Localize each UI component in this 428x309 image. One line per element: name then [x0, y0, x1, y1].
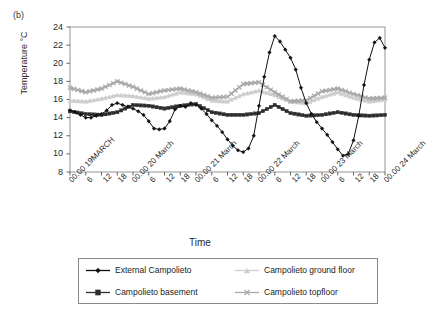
- square-marker: [104, 113, 107, 116]
- data-marker: [289, 111, 292, 114]
- square-marker: [293, 112, 296, 115]
- diamond-marker: [131, 107, 135, 111]
- data-marker: [253, 112, 256, 115]
- square-marker: [348, 113, 351, 116]
- square-marker: [253, 112, 256, 115]
- data-marker: [218, 112, 221, 115]
- square-marker: [159, 106, 162, 109]
- square-marker: [344, 112, 347, 115]
- square-marker: [163, 107, 166, 110]
- data-marker: [95, 267, 100, 272]
- data-marker: [143, 104, 146, 107]
- data-marker: [281, 107, 284, 110]
- square-marker: [167, 106, 170, 109]
- square-marker: [95, 289, 100, 294]
- data-marker: [115, 101, 119, 105]
- square-marker: [151, 105, 154, 108]
- data-marker: [234, 113, 237, 116]
- data-marker: [245, 113, 248, 116]
- square-marker: [379, 113, 382, 116]
- diamond-marker: [383, 46, 387, 50]
- data-marker: [299, 86, 303, 90]
- square-marker: [368, 114, 371, 117]
- legend: External CampolietoCampolieto ground flo…: [78, 258, 378, 304]
- legend-marker-x-icon: [234, 287, 260, 298]
- square-marker: [301, 113, 304, 116]
- square-marker: [249, 112, 252, 115]
- data-marker: [159, 106, 162, 109]
- y-tick-label: 8: [37, 168, 63, 177]
- y-tick-label: 14: [37, 113, 63, 122]
- data-marker: [119, 109, 122, 112]
- square-marker: [139, 104, 142, 107]
- square-marker: [171, 106, 174, 109]
- data-marker: [332, 111, 335, 114]
- data-marker: [320, 113, 323, 116]
- square-marker: [155, 106, 158, 109]
- data-marker: [238, 113, 241, 116]
- data-marker: [230, 113, 233, 116]
- square-marker: [273, 103, 276, 106]
- data-marker: [257, 104, 261, 108]
- y-tick-label: 22: [37, 41, 63, 50]
- legend-marker-square-icon: [85, 287, 111, 298]
- data-marker: [348, 113, 351, 116]
- legend-item[interactable]: External Campolieto: [79, 265, 228, 276]
- legend-label: Campolieto basement: [115, 287, 198, 297]
- square-marker: [210, 110, 213, 113]
- square-marker: [281, 107, 284, 110]
- data-marker: [261, 109, 264, 112]
- data-marker: [108, 112, 111, 115]
- y-axis-label: Temperature °C: [19, 3, 29, 123]
- square-marker: [131, 103, 134, 106]
- data-marker: [336, 110, 339, 113]
- square-marker: [269, 105, 272, 108]
- data-marker: [151, 105, 154, 108]
- square-marker: [84, 112, 87, 115]
- data-marker: [88, 113, 91, 116]
- data-marker: [383, 46, 387, 50]
- diamond-marker: [115, 101, 119, 105]
- square-marker: [143, 104, 146, 107]
- data-marker: [139, 104, 142, 107]
- square-marker: [222, 113, 225, 116]
- legend-item[interactable]: Campolieto topfloor: [228, 287, 377, 298]
- data-marker: [135, 103, 138, 106]
- data-marker: [147, 104, 150, 107]
- data-marker: [104, 113, 107, 116]
- legend-item[interactable]: Campolieto basement: [79, 287, 228, 298]
- data-marker: [157, 128, 161, 132]
- square-marker: [234, 113, 237, 116]
- data-marker: [242, 113, 245, 116]
- data-marker: [268, 50, 272, 54]
- data-marker: [210, 110, 213, 113]
- square-marker: [119, 109, 122, 112]
- square-marker: [261, 109, 264, 112]
- legend-item[interactable]: Campolieto ground floor: [228, 265, 377, 276]
- data-marker: [252, 134, 256, 138]
- square-marker: [277, 105, 280, 108]
- square-marker: [305, 114, 308, 117]
- square-marker: [324, 113, 327, 116]
- square-marker: [265, 107, 268, 110]
- diamond-marker: [367, 58, 371, 62]
- data-marker: [155, 106, 158, 109]
- square-marker: [245, 113, 248, 116]
- data-marker: [352, 113, 355, 116]
- square-marker: [147, 104, 150, 107]
- data-marker: [226, 113, 229, 116]
- diamond-marker: [262, 75, 266, 79]
- square-marker: [320, 113, 323, 116]
- square-marker: [116, 110, 119, 113]
- data-marker: [206, 108, 209, 111]
- square-marker: [88, 113, 91, 116]
- square-marker: [226, 113, 229, 116]
- square-marker: [316, 113, 319, 116]
- data-marker: [297, 113, 300, 116]
- data-marker: [84, 116, 88, 120]
- data-marker: [294, 68, 298, 72]
- diamond-marker: [84, 116, 88, 120]
- y-tick-label: 24: [37, 23, 63, 32]
- square-marker: [328, 112, 331, 115]
